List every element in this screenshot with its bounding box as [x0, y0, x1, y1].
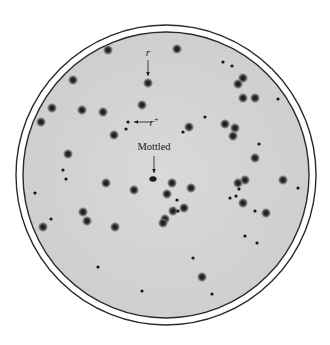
r-plus-plaque — [96, 265, 99, 268]
r-plaque-center — [50, 106, 54, 110]
r-plaque-center — [170, 181, 174, 185]
r-plaque-center — [113, 225, 117, 229]
mottled-plaque — [149, 176, 156, 182]
r-plaque-center — [66, 152, 70, 156]
petri-dish-svg: rr+Mottled — [0, 0, 330, 345]
r-plaque-center — [182, 206, 186, 210]
dish-agar — [23, 32, 309, 318]
r-plaque-center — [146, 81, 150, 85]
r-plaque-center — [81, 210, 85, 214]
r-plaque-center — [231, 134, 235, 138]
r-plaque-center — [132, 188, 136, 192]
r-plus-plaque — [124, 127, 127, 130]
r-plaque-center — [140, 103, 144, 107]
r-plaque-center — [241, 201, 245, 205]
r-plaque-center — [243, 178, 247, 182]
r-plus-plaque — [237, 187, 240, 190]
r-plaque-center — [175, 47, 179, 51]
r-plaque-center — [85, 219, 89, 223]
r-plus-plaque — [175, 198, 178, 201]
r-plaque-center — [80, 108, 84, 112]
r-plaque-center — [71, 78, 75, 82]
r-plaque-center — [39, 120, 43, 124]
r-plus-plaque — [255, 241, 258, 244]
r-plaque-center — [281, 178, 285, 182]
r-plus-plaque — [230, 64, 233, 67]
petri-dish-figure: rr+Mottled — [0, 0, 330, 345]
r-plus-plaque — [257, 142, 260, 145]
r-plaque-center — [112, 133, 116, 137]
r-plus-plaque — [140, 289, 143, 292]
r-plus-plaque — [49, 217, 52, 220]
label-r: r — [146, 46, 151, 58]
r-plus-plaque — [228, 196, 231, 199]
r-plus-plaque — [296, 186, 299, 189]
r-plaque-center — [236, 181, 240, 185]
r-plus-plaque — [253, 209, 256, 212]
r-plaque-center — [233, 126, 237, 130]
r-plus-plaque — [210, 292, 213, 295]
r-plaque-center — [106, 48, 110, 52]
r-plus-plaque — [221, 60, 224, 63]
r-plus-plaque — [234, 194, 237, 197]
r-plus-plaque — [126, 120, 129, 123]
r-plaque-center — [101, 110, 105, 114]
r-plaque-center — [200, 275, 204, 279]
r-plus-plaque — [243, 234, 246, 237]
r-plaque-center — [189, 186, 193, 190]
r-plus-plaque — [203, 115, 206, 118]
r-plus-plaque — [33, 191, 36, 194]
r-plus-plaque — [181, 130, 184, 133]
r-plaque-center — [171, 209, 175, 213]
r-plaque-center — [241, 76, 245, 80]
r-plaque-center — [165, 192, 169, 196]
r-plus-plaque — [176, 209, 179, 212]
r-plaque-center — [253, 96, 257, 100]
label-mottled: Mottled — [137, 141, 171, 152]
r-plus-plaque — [191, 256, 194, 259]
r-plaque-center — [187, 125, 191, 129]
r-plaque-center — [264, 211, 268, 215]
r-plus-plaque — [61, 168, 64, 171]
r-plaque-center — [253, 156, 257, 160]
dish — [16, 25, 316, 325]
r-plaque-center — [41, 225, 45, 229]
r-plus-plaque — [276, 97, 279, 100]
r-plaque-center — [241, 96, 245, 100]
r-plaque-center — [236, 82, 240, 86]
r-plaque-center — [104, 181, 108, 185]
r-plus-plaque — [64, 177, 67, 180]
r-plaque-center — [161, 221, 165, 225]
r-plaque-center — [223, 122, 227, 126]
